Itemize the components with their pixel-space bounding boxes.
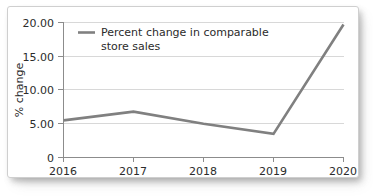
x-tick-label-2018: 2018 bbox=[189, 165, 217, 178]
legend-label-line2: store sales bbox=[101, 40, 161, 53]
x-tick-label-2017: 2017 bbox=[119, 165, 147, 178]
y-tick-label-5: 5.00 bbox=[30, 118, 55, 131]
y-tick-label-20: 20.00 bbox=[23, 17, 55, 30]
x-tick-label-2019: 2019 bbox=[259, 165, 287, 178]
line-chart: 20.00 15.00 10.00 5.00 0 2016 2017 2018 … bbox=[8, 7, 360, 179]
y-tick-labels: 20.00 15.00 10.00 5.00 0 bbox=[23, 17, 55, 165]
chart-card: 20.00 15.00 10.00 5.00 0 2016 2017 2018 … bbox=[7, 6, 359, 178]
legend-label-line1: Percent change in comparable bbox=[101, 26, 269, 39]
y-tick-label-0: 0 bbox=[47, 152, 54, 165]
x-tick-labels: 2016 2017 2018 2019 2020 bbox=[49, 165, 357, 178]
y-tick-label-15: 15.00 bbox=[23, 51, 55, 64]
y-tick-marks bbox=[58, 23, 63, 158]
y-tick-label-10: 10.00 bbox=[23, 84, 55, 97]
x-tick-label-2016: 2016 bbox=[49, 165, 77, 178]
chart-legend: Percent change in comparable store sales bbox=[78, 26, 269, 53]
y-axis-title: % change bbox=[13, 63, 26, 118]
x-tick-label-2020: 2020 bbox=[329, 165, 357, 178]
